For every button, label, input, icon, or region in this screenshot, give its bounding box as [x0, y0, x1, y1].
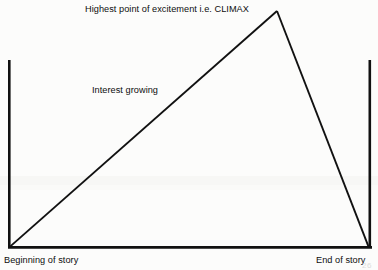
end-of-story-label: End of story — [316, 255, 366, 266]
interest-growing-label: Interest growing — [92, 85, 158, 96]
beginning-of-story-label: Beginning of story — [4, 255, 78, 266]
falling-action-line — [277, 11, 369, 247]
rising-action-line — [10, 11, 277, 247]
diagram-page: Highest point of excitement i.e. CLIMAX … — [0, 0, 378, 270]
climax-label: Highest point of excitement i.e. CLIMAX — [85, 4, 249, 15]
story-arc-chart — [0, 0, 378, 270]
page-number-artifact: 26 — [362, 261, 372, 270]
